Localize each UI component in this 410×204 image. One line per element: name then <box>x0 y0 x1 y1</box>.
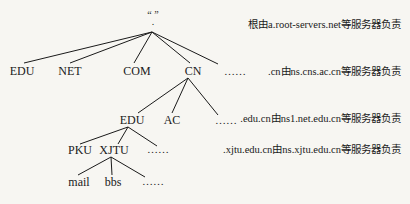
node-bbs: bbs <box>105 176 122 188</box>
node-cn-edu: EDU <box>120 114 145 126</box>
node-mail: mail <box>68 176 89 188</box>
note-xjtu-server: .xjtu.edu.cn由ns.xjtu.edu.cn等服务器负责 <box>223 144 401 156</box>
node-level4-more: …… <box>142 175 164 187</box>
node-pku: PKU <box>68 144 92 156</box>
node-level1-more: …… <box>224 65 246 77</box>
node-xjtu: XJTU <box>99 144 128 156</box>
note-edu-cn-server: .edu.cn由ns1.net.edu.cn等服务器负责 <box>240 113 401 125</box>
node-net: NET <box>58 65 81 77</box>
node-cn-ac: AC <box>164 114 181 126</box>
root-dot: . <box>152 16 155 28</box>
note-cn-server: .cn由ns.cns.ac.cn等服务器负责 <box>268 66 401 78</box>
node-cn: CN <box>185 65 202 77</box>
node-com: COM <box>123 65 150 77</box>
node-edu: EDU <box>10 65 35 77</box>
note-root-server: 根由a.root-servers.net等服务器负责 <box>248 19 401 31</box>
node-level3-more: …… <box>147 143 169 155</box>
node-level2-more: …… <box>215 114 237 126</box>
